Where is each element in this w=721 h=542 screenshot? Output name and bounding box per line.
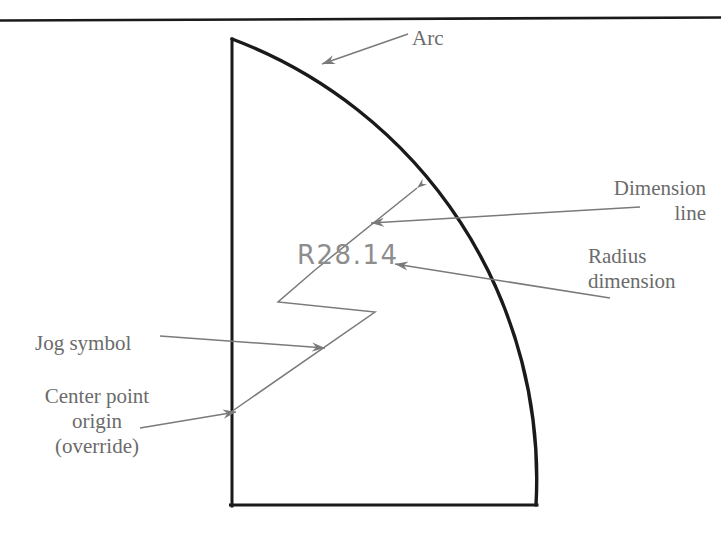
callout-center-line2: origin: [72, 409, 122, 433]
callout-label-center-point-origin: Center pointorigin(override): [12, 384, 182, 459]
arc-curve: [232, 39, 537, 505]
callout-label-dimension-line: Dimensionline: [560, 176, 706, 226]
arc-leader: [322, 34, 408, 64]
callout-label-radius-dimension: Radiusdimension: [588, 244, 720, 294]
callout-dimension-line2: line: [675, 201, 707, 225]
technical-drawing-figure: R28.14 Arc Dimensionline Radiusdimension…: [0, 0, 721, 542]
top-rule: [0, 18, 721, 21]
radius-dimension-value: R28.14: [297, 240, 399, 270]
jog-symbol: [231, 270, 375, 412]
callout-center-line1: Center point: [45, 384, 149, 408]
callout-label-arc: Arc: [412, 26, 443, 51]
callout-label-jog-symbol: Jog symbol: [35, 331, 131, 356]
callout-radius-line1: Radius: [588, 244, 646, 268]
part-outline: [231, 39, 538, 506]
callout-center-line3: (override): [55, 434, 139, 458]
callout-radius-line2: dimension: [588, 269, 676, 293]
jog-symbol-callout-leader: [160, 336, 325, 348]
callout-dimension-line1: Dimension: [614, 176, 706, 200]
radius-dimension-callout-leader: [395, 264, 610, 298]
